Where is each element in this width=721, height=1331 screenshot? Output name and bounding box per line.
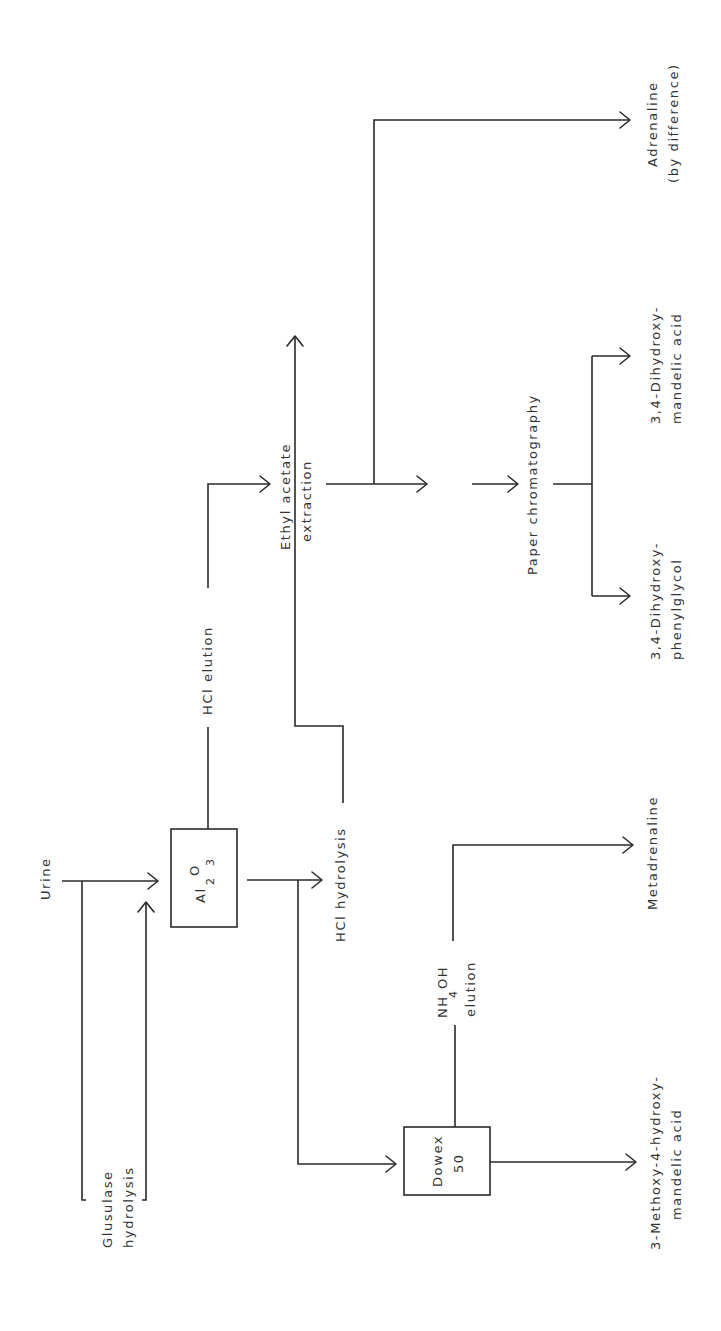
edge-hcl-hydrolysis-to-ethyl: [287, 336, 343, 803]
label-al2o3-sub3: 3: [204, 857, 217, 866]
edge-ethyl-to-och3: [326, 476, 427, 492]
label-vma-line2: mandelic acid: [669, 1109, 684, 1220]
label-nh4oh-oh: OH: [435, 966, 450, 989]
label-ethyl-line2: extraction: [299, 460, 314, 542]
label-dhma-line2: mandelic acid: [669, 313, 684, 424]
label-metadrenaline: Metadrenaline: [645, 796, 660, 910]
node-al2o3: Al 2 O 3: [171, 829, 237, 927]
edge-al2o3-to-hcl-hydrolysis: [247, 872, 322, 888]
label-vma-line1: 3-Methoxy-4-hydroxy-: [648, 1075, 663, 1250]
label-glusulase-line2: hydrolysis: [121, 1166, 136, 1248]
edge-nh4oh-to-metadrenaline: [453, 837, 633, 941]
edge-paper-to-products: [553, 348, 630, 604]
label-nh4oh-elution: elution: [463, 961, 478, 1017]
edge-urine-to-glusulase: [82, 881, 86, 1200]
label-dhpg-line1: 3,4-Dihydroxy-: [648, 542, 663, 660]
label-nh4oh-sub: 4: [447, 989, 460, 998]
edge-dowex-to-vma: [490, 1154, 636, 1170]
label-ethyl-line1: Ethyl acetate: [278, 443, 293, 550]
label-paper-chromatography: Paper chromatography: [525, 394, 540, 575]
edge-urine-to-al2o3: [62, 873, 158, 889]
label-adrenaline-line1: Adrenaline: [645, 81, 660, 167]
label-adrenaline-line2: (by difference): [666, 63, 681, 183]
label-dowex-line1: Dowex: [430, 1135, 445, 1187]
label-dowex-line2: 50: [451, 1153, 466, 1173]
node-dowex-50: Dowex 50: [404, 1127, 490, 1195]
label-al2o3-al: Al: [193, 887, 208, 903]
label-glusulase-line1: Glusulase: [100, 1170, 115, 1248]
flow-diagram: Urine Glusulase hydrolysis Al 2 O 3 HCl …: [0, 0, 721, 1331]
label-hcl-hydrolysis: HCl hydrolysis: [333, 827, 348, 942]
label-hcl-elution: HCl elution: [200, 626, 215, 715]
label-dhma-line1: 3,4-Dihydroxy-: [648, 306, 663, 424]
label-urine: Urine: [38, 857, 53, 900]
label-al2o3-o: O: [187, 864, 202, 876]
edge-hcl-elution-to-ethyl: [208, 476, 270, 588]
label-al2o3-sub2: 2: [204, 876, 217, 885]
edge-och3-to-paper: [472, 476, 518, 492]
label-dhpg-line2: phenylglycol: [669, 558, 684, 660]
edge-glusulase-to-al2o3: [138, 902, 154, 1200]
